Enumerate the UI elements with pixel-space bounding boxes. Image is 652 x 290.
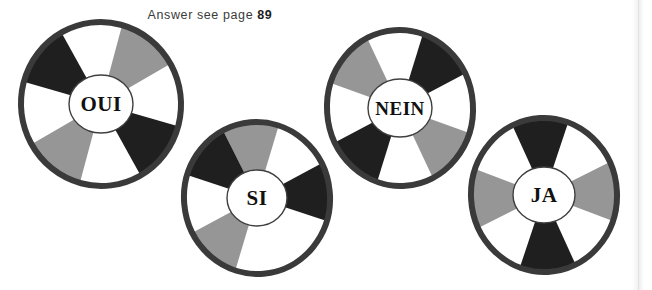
puzzle-page: Answer see page 89 OUISINEINJA <box>0 0 652 290</box>
wheel-ja[interactable]: JA <box>455 102 633 288</box>
wheel-nein-label: NEIN <box>375 98 425 119</box>
wheel-oui-label: OUI <box>80 92 121 116</box>
caption-page-number: 89 <box>257 8 272 22</box>
wheel-si-label: SI <box>247 186 268 210</box>
wheel-ja-label: JA <box>531 183 558 207</box>
page-edge-line <box>638 0 639 290</box>
